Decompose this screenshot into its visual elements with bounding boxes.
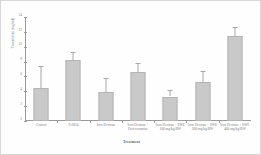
bar-group — [57, 17, 89, 121]
error-bar — [170, 90, 171, 97]
x-axis-category-label: Iron Dextran + Deferoxamine — [122, 123, 154, 132]
y-axis-tick-label: 10 — [18, 43, 22, 47]
y-axis-tick-label: 6 — [20, 73, 22, 77]
error-bar — [234, 27, 235, 36]
error-bar — [137, 63, 138, 72]
x-axis-category-label: Iron Dextran + SWE 100 mg/kg/BW — [154, 123, 186, 132]
error-bar-cap — [39, 66, 44, 67]
bar-group — [25, 17, 57, 121]
error-bar-cap — [71, 52, 76, 53]
error-bar — [41, 66, 42, 88]
bar — [227, 36, 242, 121]
error-bar — [202, 71, 203, 82]
plot-area: 02468101214 — [25, 17, 251, 121]
bar — [98, 92, 113, 121]
error-bar-cap — [168, 90, 173, 91]
error-bar — [73, 52, 74, 60]
y-axis-tick: 0 — [24, 121, 27, 122]
bar-group — [122, 17, 154, 121]
bar-group — [219, 17, 251, 121]
bar-group — [186, 17, 218, 121]
error-bar-cap — [103, 78, 108, 79]
bar — [163, 97, 178, 122]
y-axis-tick-label: 8 — [20, 58, 22, 62]
y-axis-tick-label: 4 — [20, 88, 22, 92]
bar-group — [154, 17, 186, 121]
y-axis-tick-label: 2 — [20, 103, 22, 107]
bar — [66, 60, 81, 121]
x-axis-category-label: Iron Dextran — [90, 123, 122, 127]
bar-group — [90, 17, 122, 121]
bar — [195, 82, 210, 121]
error-bar-cap — [200, 71, 205, 72]
y-axis-title: Transferrin (mg/ml) — [11, 0, 15, 73]
error-bar-cap — [135, 63, 140, 64]
y-axis-tick-label: 14 — [18, 14, 22, 18]
bar — [34, 88, 49, 121]
x-axis-title: Treatment — [1, 140, 261, 144]
error-bar — [105, 78, 106, 92]
x-axis-category-label: Iron Dextran + SWE 200 mg/kg/BW — [186, 123, 218, 132]
figure-panel: Transferrin (mg/ml) 02468101214 ControlF… — [0, 0, 261, 155]
x-axis-category-label: Control — [25, 123, 57, 127]
error-bar-cap — [232, 27, 237, 28]
x-axis-category-label: FeSO4 — [57, 123, 89, 127]
bar — [130, 72, 145, 121]
y-axis-tick-label: 0 — [20, 118, 22, 122]
x-axis-category-label: Iron Dextran + SWE 400 mg/kg/BW — [219, 123, 251, 132]
y-axis-tick-label: 12 — [18, 29, 22, 33]
